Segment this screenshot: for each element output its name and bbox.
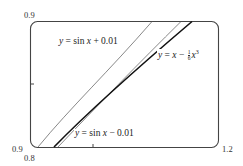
fraction: 16 (188, 50, 191, 62)
eq-text: = sin (79, 128, 103, 138)
denominator: 6 (188, 56, 191, 62)
exponent: 3 (196, 49, 199, 55)
y-min-label: 0.9 (12, 145, 23, 154)
x-max-label: 1.2 (222, 145, 233, 154)
y-max-label: 0.9 (24, 11, 35, 20)
eq-tail: + 0.01 (91, 36, 118, 46)
x-min-label: 0.8 (24, 154, 35, 163)
minus-sign: − (177, 50, 187, 60)
label-cubic: y = x − 16x3 (157, 49, 200, 62)
eq-text: = (162, 50, 172, 60)
chart-canvas (0, 0, 243, 166)
label-sin-plus: y = sin x + 0.01 (58, 37, 119, 47)
label-sin-minus: y = sin x − 0.01 (74, 129, 135, 139)
eq-text: = sin (63, 36, 87, 46)
eq-tail: − 0.01 (107, 128, 134, 138)
